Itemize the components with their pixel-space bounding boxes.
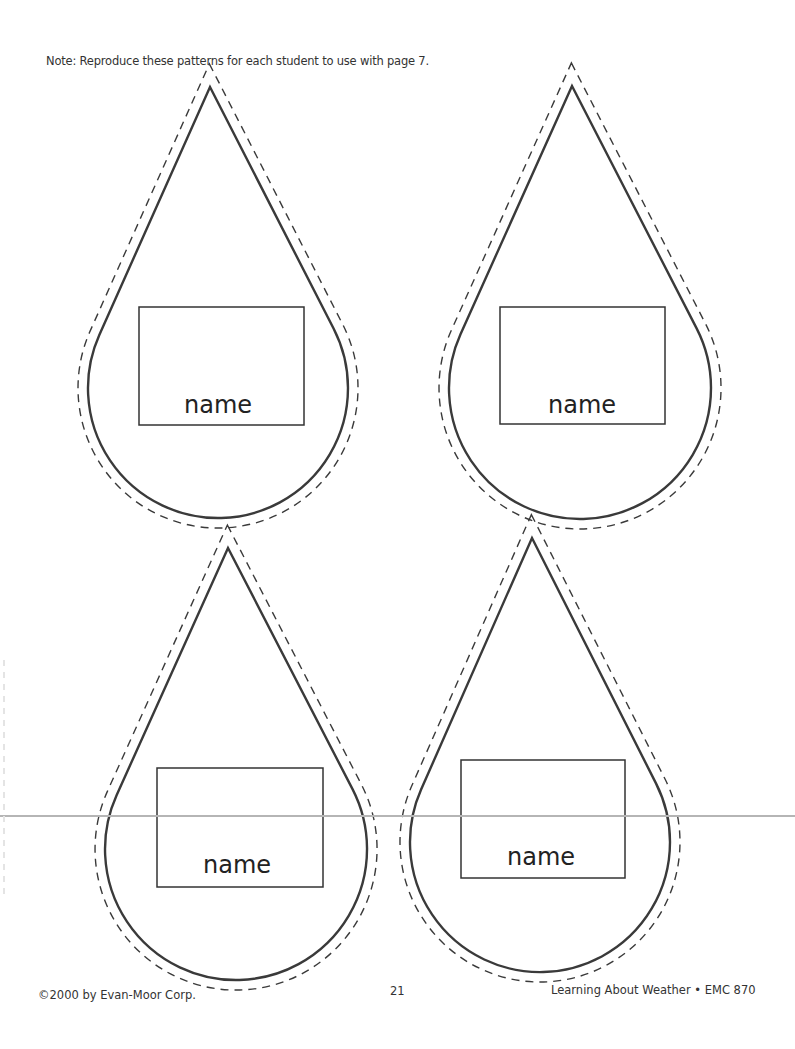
copyright-text: ©2000 by Evan-Moor Corp. bbox=[38, 988, 196, 1002]
page-number: 21 bbox=[390, 984, 405, 998]
raindrop-outline bbox=[410, 538, 670, 972]
raindrop-pattern-4: name bbox=[400, 515, 680, 982]
name-label: name bbox=[548, 391, 616, 419]
raindrop-pattern-2: name bbox=[439, 63, 721, 529]
raindrop-outline bbox=[449, 86, 711, 519]
raindrop-pattern-3: name bbox=[95, 525, 377, 990]
name-label: name bbox=[507, 843, 575, 871]
book-title: Learning About Weather • EMC 870 bbox=[551, 983, 756, 997]
raindrop-outline bbox=[88, 87, 348, 518]
scan-edge-mark bbox=[3, 660, 5, 900]
name-label: name bbox=[184, 391, 252, 419]
scan-fold-line bbox=[0, 815, 795, 817]
raindrop-outline bbox=[105, 548, 367, 980]
raindrop-pattern-1: name bbox=[78, 64, 358, 528]
name-label: name bbox=[203, 851, 271, 879]
raindrop-patterns: name name name name bbox=[0, 0, 795, 1049]
